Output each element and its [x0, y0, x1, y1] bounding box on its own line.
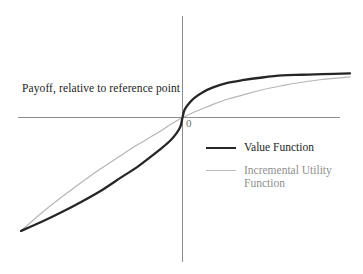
figure-canvas: Payoff, relative to reference point 0 Va…	[0, 0, 363, 274]
legend-item-value-function: Value Function	[206, 141, 356, 155]
legend-swatch-value-function-icon	[206, 147, 236, 149]
legend-label-incremental-utility-function: Incremental Utility Function	[244, 164, 332, 191]
legend-swatch-incremental-utility-function-icon	[206, 170, 236, 171]
legend: Value Function Incremental Utility Funct…	[206, 141, 356, 200]
origin-tick-label: 0	[186, 117, 192, 129]
plot-area	[0, 0, 363, 274]
legend-label-value-function: Value Function	[244, 141, 314, 155]
legend-item-incremental-utility-function: Incremental Utility Function	[206, 164, 356, 191]
y-axis-label: Payoff, relative to reference point	[22, 82, 180, 94]
